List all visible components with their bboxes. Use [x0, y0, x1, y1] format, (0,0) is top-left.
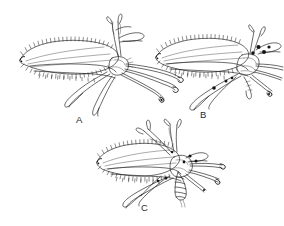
specimen-c-abdomen [175, 172, 186, 207]
specimen-a-legs-right [121, 64, 183, 102]
specimen-a [20, 14, 183, 116]
specimen-a-wing-fringe-upper [21, 37, 113, 55]
specimen-a-raised-appendages [107, 14, 144, 56]
specimen-c-raised-appendages [136, 119, 181, 155]
specimen-b-legs-right [250, 64, 283, 96]
panel-label-c: C [141, 203, 148, 213]
specimen-b-legs-left [190, 74, 241, 110]
specimen-c [97, 119, 226, 208]
specimen-illustration: .ln { fill:none; stroke:#1a1a1a; stroke-… [0, 0, 284, 226]
specimen-b-abdomen-tip [244, 77, 252, 99]
specimen-a-hindwing [30, 64, 116, 82]
figure-canvas: .ln { fill:none; stroke:#1a1a1a; stroke-… [0, 0, 284, 226]
specimen-b-forewing [156, 35, 249, 77]
panel-label-a: A [76, 115, 83, 125]
specimen-c-forewing [97, 140, 180, 182]
specimen-c-legs-right [184, 163, 225, 192]
specimen-b-clubbed-appendages [249, 25, 281, 55]
specimen-b [156, 25, 283, 110]
specimen-b-wing-fringe-upper [157, 35, 241, 53]
specimen-c-wing-fringe-lower [98, 166, 170, 181]
specimen-a-thorax [109, 57, 129, 76]
specimen-a-forewing [20, 37, 119, 79]
panel-label-b: B [200, 110, 207, 120]
